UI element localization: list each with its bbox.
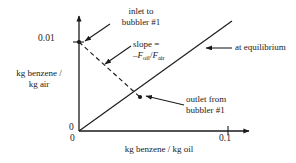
inlet-point-marker (77, 40, 81, 44)
y-origin-label: 0 (69, 122, 74, 133)
annotation-outlet-line1: outlet from (186, 94, 276, 105)
y-axis-title: kg benzene / kg air (4, 68, 74, 89)
slope-numerator-subscript: oil (143, 54, 150, 61)
annotation-slope: slope = –Foil/Fair (133, 39, 205, 60)
figure-canvas: 0.01 0 0 0.1 kg benzene / kg air kg benz… (0, 0, 296, 163)
x-origin-label: 0 (70, 133, 75, 144)
slope-denominator-subscript: air (158, 54, 165, 61)
x-axis-title: kg benzene / kg oil (104, 144, 214, 155)
annotation-outlet: outlet from bubbler #1 (186, 94, 276, 115)
outlet-leader-arrow (146, 96, 184, 105)
annotation-inlet: inlet to bubbler #1 (104, 6, 178, 27)
annotation-slope-line1: slope = (133, 39, 205, 50)
outlet-point-marker (138, 95, 142, 99)
annotation-outlet-line2: bubbler #1 (186, 105, 276, 116)
annotation-inlet-line2: bubbler #1 (104, 17, 178, 28)
operating-line-dashed (79, 42, 141, 98)
y-tick-label-0.01: 0.01 (38, 33, 55, 44)
annotation-slope-expression: –Foil/Fair (133, 50, 205, 61)
y-axis-title-line2: kg air (4, 79, 74, 90)
slope-leader-arrow (105, 46, 131, 64)
annotation-inlet-line1: inlet to (104, 6, 178, 17)
x-tick-label-0.1: 0.1 (219, 133, 231, 144)
annotation-equilibrium: at equilibrium (235, 42, 286, 53)
y-axis-title-line1: kg benzene / (4, 68, 74, 79)
